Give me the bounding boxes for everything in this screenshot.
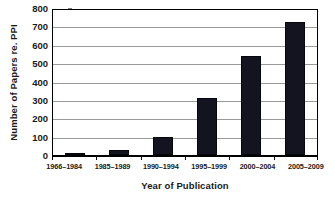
y-tick-label: 500 (32, 59, 48, 69)
x-tick-mark (96, 156, 97, 160)
x-tick-label: 1985–1989 (88, 162, 136, 174)
y-tick-label: 300 (32, 96, 48, 106)
y-tick-label: 200 (32, 115, 48, 125)
bar-chart: Number of Papers re. PPI 010020030040050… (0, 0, 335, 202)
y-tick-label: 400 (32, 78, 48, 88)
y-tick-label: 700 (32, 23, 48, 33)
y-tick-label: 800 (32, 4, 48, 14)
y-tick-label: 0 (43, 151, 48, 161)
bar (241, 56, 261, 155)
bar (109, 150, 129, 155)
bar-slot (185, 10, 229, 155)
x-axis-tick-labels: 1966–19841985–19891990–19941995–19992000… (40, 162, 330, 174)
plot-area (52, 9, 318, 156)
y-tick-label: 600 (32, 41, 48, 51)
x-tick-mark (185, 156, 186, 160)
bar-slot (141, 10, 185, 155)
bars-layer (53, 10, 317, 155)
x-tick-label: 2000–2004 (233, 162, 281, 174)
bar (285, 22, 305, 155)
x-tick-mark (229, 156, 230, 160)
x-axis-tick-marks (52, 156, 318, 161)
x-axis-title: Year of Publication (52, 180, 318, 191)
x-tick-label: 1990–1994 (137, 162, 185, 174)
x-tick-label: 1966–1984 (40, 162, 88, 174)
x-tick-mark (52, 156, 53, 160)
bar-slot (229, 10, 273, 155)
x-tick-label: 2005–2009 (282, 162, 330, 174)
x-tick-label: 1995–1999 (185, 162, 233, 174)
bar (153, 137, 173, 155)
bar (197, 98, 217, 156)
bar-slot (273, 10, 317, 155)
bar (65, 153, 85, 155)
bar-slot (97, 10, 141, 155)
x-tick-mark (141, 156, 142, 160)
x-tick-mark (317, 156, 318, 160)
x-tick-mark (274, 156, 275, 160)
bar-slot (53, 10, 97, 155)
y-tick-label: 100 (32, 133, 48, 143)
y-axis-tick-labels: 0100200300400500600700800 (18, 9, 48, 156)
